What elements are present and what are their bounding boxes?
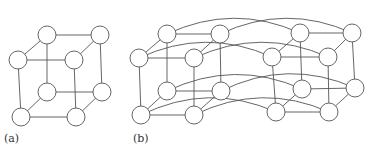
arc-edge <box>167 18 300 34</box>
node-a4 <box>12 108 30 126</box>
node-a6 <box>38 83 56 101</box>
node-c7 <box>346 79 364 97</box>
node-b3 <box>211 25 229 43</box>
node-c3 <box>343 24 361 42</box>
node-c1 <box>319 48 337 66</box>
edges <box>18 33 355 117</box>
arc-edge <box>167 74 302 91</box>
node-a1 <box>65 51 83 69</box>
node-b6 <box>158 82 176 100</box>
node-c5 <box>320 103 338 121</box>
arc-edge <box>139 42 272 58</box>
panel-a-label: (a) <box>4 132 19 145</box>
node-b7 <box>212 82 230 100</box>
node-b1 <box>185 49 203 67</box>
node-c0 <box>263 48 281 66</box>
node-a0 <box>9 51 27 69</box>
node-a2 <box>38 26 56 44</box>
arc-edge <box>220 18 352 34</box>
node-b0 <box>130 49 148 67</box>
hypercube-diagram <box>0 0 375 155</box>
node-b4 <box>132 106 150 124</box>
node-b2 <box>158 25 176 43</box>
node-c6 <box>293 80 311 98</box>
arc-edge <box>194 42 328 58</box>
node-a7 <box>93 83 111 101</box>
node-a3 <box>91 26 109 44</box>
node-b5 <box>185 106 203 124</box>
node-c4 <box>267 103 285 121</box>
node-a5 <box>67 108 85 126</box>
panel-b-label: (b) <box>133 132 149 145</box>
node-c2 <box>291 24 309 42</box>
arc-edge <box>141 98 276 115</box>
